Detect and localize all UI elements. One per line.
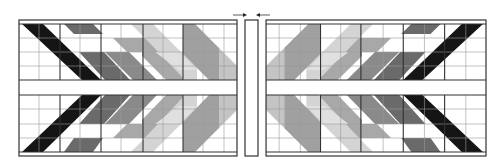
arrow-right-icon <box>233 13 247 17</box>
left-panel <box>19 20 237 156</box>
center-strip <box>245 20 258 156</box>
arrow-left-icon <box>256 13 270 17</box>
quilt-diagram <box>0 0 499 162</box>
right-panel <box>266 20 486 156</box>
